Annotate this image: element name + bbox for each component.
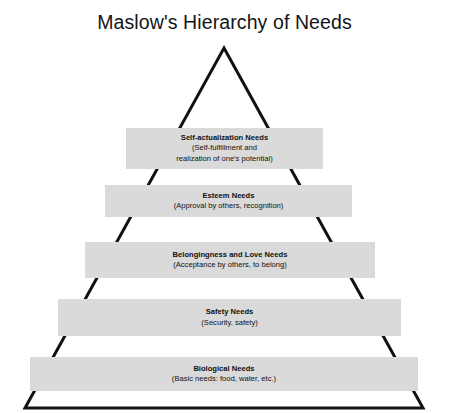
tier-label-line: Safety Needs bbox=[206, 307, 254, 317]
pyramid-triangle-shape bbox=[25, 48, 423, 408]
tier-belongingness-and-love[interactable]: Belongingness and Love Needs (Acceptance… bbox=[85, 242, 375, 278]
tier-label-line: (Acceptance by others, to belong) bbox=[173, 260, 287, 270]
tier-label-line: realization of one's potential) bbox=[176, 154, 272, 164]
tier-label-line: Self-actualization Needs bbox=[181, 133, 268, 143]
maslow-hierarchy-diagram: Maslow's Hierarchy of Needs Self-actuali… bbox=[0, 0, 449, 413]
tier-esteem[interactable]: Esteem Needs (Approval by others, recogn… bbox=[105, 185, 352, 217]
tier-label-line: (Approval by others, recognition) bbox=[174, 201, 284, 211]
tier-label-line: (Self-fulfillment and bbox=[192, 143, 257, 153]
tier-biological[interactable]: Biological Needs (Basic needs: food, wat… bbox=[30, 357, 418, 391]
tier-label-line: (Basic needs: food, water, etc.) bbox=[172, 374, 276, 384]
tier-label-line: (Security, safety) bbox=[201, 318, 257, 328]
tier-label-line: Biological Needs bbox=[193, 364, 254, 374]
tier-self-actualization[interactable]: Self-actualization Needs (Self-fulfillme… bbox=[126, 128, 323, 169]
tier-label-line: Esteem Needs bbox=[203, 191, 255, 201]
tier-label-line: Belongingness and Love Needs bbox=[173, 250, 288, 260]
tier-safety[interactable]: Safety Needs (Security, safety) bbox=[58, 299, 401, 336]
